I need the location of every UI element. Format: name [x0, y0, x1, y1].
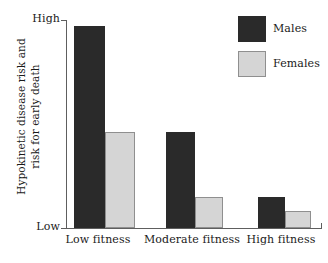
y-axis-label-line-2: risk for early death [28, 38, 42, 195]
legend-item-females: Females [238, 51, 326, 77]
y-axis-label-line-1: Hypokinetic disease risk and [15, 38, 29, 195]
bar-females-low-fitness [105, 132, 135, 228]
bar-group-low-fitness [74, 20, 142, 228]
x-axis-category-moderate-fitness: Moderate fitness [140, 233, 244, 246]
y-axis-tick-low: Low [24, 221, 60, 233]
y-axis-tick-mark-high [61, 20, 66, 21]
bar-females-moderate-fitness [195, 197, 223, 228]
x-axis-line [66, 228, 322, 229]
bar-males-moderate-fitness [166, 132, 195, 228]
y-axis-tick-mark-low [61, 228, 66, 229]
x-axis-category-low-fitness: Low fitness [50, 233, 146, 246]
legend-swatch-males [238, 16, 266, 42]
x-axis-category-high-fitness: High fitness [239, 233, 323, 246]
bar-females-high-fitness [285, 211, 311, 228]
legend-swatch-females [238, 51, 266, 77]
y-axis-tick-high: High [24, 13, 60, 25]
y-axis-label: Hypokinetic disease risk and risk for ea… [6, 0, 50, 232]
legend-item-males: Males [238, 16, 326, 42]
bar-males-high-fitness [258, 197, 285, 228]
chart-figure: Hypokinetic disease risk and risk for ea… [0, 0, 328, 263]
legend: Males Females [238, 16, 326, 86]
bar-group-moderate-fitness [166, 20, 228, 228]
bar-males-low-fitness [74, 26, 105, 228]
legend-label-males: Males [273, 23, 307, 35]
legend-label-females: Females [273, 58, 320, 70]
